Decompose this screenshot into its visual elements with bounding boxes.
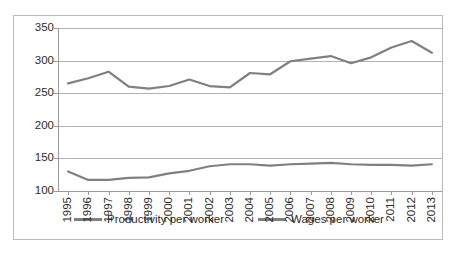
x-tick-mark-2009 — [351, 191, 352, 195]
x-tick-label: 2005 — [264, 197, 276, 223]
x-tick-label: 2009 — [345, 197, 357, 223]
x-tick-mark-1995 — [68, 191, 69, 195]
x-tick-mark-2003 — [230, 191, 231, 195]
x-tick-mark-1998 — [129, 191, 130, 195]
x-tick-mark-1996 — [88, 191, 89, 195]
x-tick-mark-1997 — [109, 191, 110, 195]
x-tick-mark-2005 — [270, 191, 271, 195]
x-tick-mark-2002 — [210, 191, 211, 195]
x-tick-mark-2013 — [432, 191, 433, 195]
chart-figure: Productivity per workerWages per worker … — [13, 15, 443, 240]
x-tick-label: 2006 — [284, 197, 296, 223]
x-tick-mark-2012 — [412, 191, 413, 195]
y-tick-label: 300 — [14, 55, 59, 67]
x-tick-mark-2011 — [391, 191, 392, 195]
x-tick-label: 1999 — [143, 197, 155, 223]
y-tick-label: 100 — [14, 185, 59, 197]
x-tick-mark-2001 — [189, 191, 190, 195]
x-tick-label: 2004 — [244, 197, 256, 223]
x-tick-label: 2010 — [365, 197, 377, 223]
x-tick-label: 1995 — [62, 197, 74, 223]
y-tick-label: 150 — [14, 153, 59, 165]
series-line-wages-per-worker — [68, 163, 432, 180]
x-tick-label: 2008 — [325, 197, 337, 223]
x-tick-label: 2002 — [204, 197, 216, 223]
x-tick-mark-2006 — [290, 191, 291, 195]
x-tick-mark-2008 — [331, 191, 332, 195]
x-tick-label: 1998 — [123, 197, 135, 223]
x-tick-label: 2011 — [385, 197, 397, 222]
y-tick-label: 250 — [14, 87, 59, 99]
x-tick-label: 1996 — [82, 197, 94, 223]
x-tick-mark-2004 — [250, 191, 251, 195]
y-tick-label: 350 — [14, 22, 59, 34]
x-tick-mark-2010 — [371, 191, 372, 195]
x-tick-label: 2003 — [224, 197, 236, 223]
x-tick-label: 2000 — [163, 197, 175, 223]
x-tick-label: 2012 — [406, 197, 418, 223]
x-tick-label: 2007 — [305, 197, 317, 223]
x-tick-label: 2013 — [426, 197, 438, 223]
x-tick-label: 1997 — [103, 197, 115, 223]
x-tick-label: 2001 — [183, 197, 195, 223]
x-tick-mark-2000 — [169, 191, 170, 195]
y-tick-label: 200 — [14, 120, 59, 132]
series-line-productivity-per-worker — [68, 41, 432, 89]
x-tick-mark-2007 — [311, 191, 312, 195]
x-tick-mark-1999 — [149, 191, 150, 195]
